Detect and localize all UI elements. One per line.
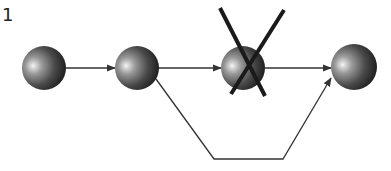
node-sphere-n1: [22, 46, 66, 90]
node-sphere-n2: [115, 46, 159, 90]
edges-group: [66, 68, 331, 159]
network-diagram: [0, 0, 391, 171]
nodes-group: [22, 44, 377, 90]
edge-n2-n4: [156, 78, 331, 159]
node-sphere-n4: [331, 44, 377, 90]
